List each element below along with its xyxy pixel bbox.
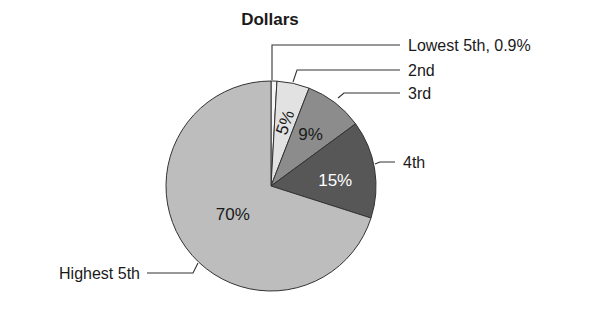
label-4th: 4th <box>403 154 425 171</box>
leader-line-2nd <box>293 70 400 82</box>
label-3rd: 3rd <box>408 85 431 102</box>
leader-line-lowest <box>272 45 400 80</box>
label-highest-5th: Highest 5th <box>59 265 140 282</box>
slice-value-label: 15% <box>318 171 352 190</box>
chart-title: Dollars <box>241 10 299 29</box>
leader-line-4th <box>375 162 395 164</box>
pie-chart: Dollars 5%9%15%70% Lowest 5th, 0.9% 2nd … <box>0 0 602 315</box>
label-2nd: 2nd <box>408 62 435 79</box>
leader-line-highest <box>147 263 198 273</box>
slice-value-label: 9% <box>298 125 323 144</box>
slice-value-label: 70% <box>216 205 250 224</box>
label-lowest-5th: Lowest 5th, 0.9% <box>408 37 531 54</box>
leader-line-3rd <box>338 93 400 98</box>
